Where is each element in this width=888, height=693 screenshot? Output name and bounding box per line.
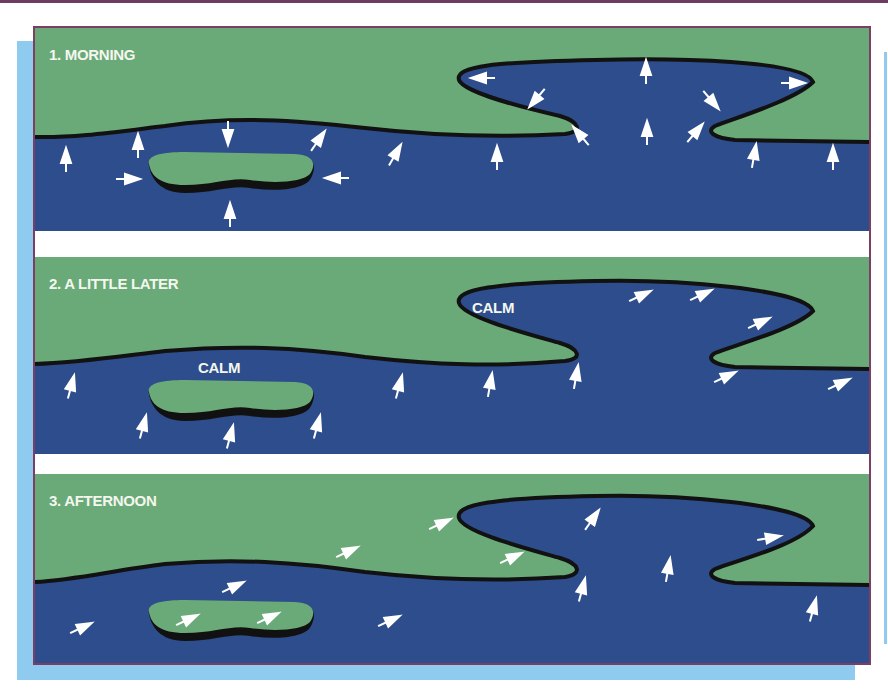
right-margin-rule xyxy=(884,52,887,644)
calm-label-island: CALM xyxy=(198,359,240,376)
panel-title: 2. A LITTLE LATER xyxy=(49,275,178,292)
panel-title: 3. AFTERNOON xyxy=(49,492,157,509)
diagram-frame: 1. MORNING 2. A L xyxy=(33,26,871,665)
panel-afternoon: 3. AFTERNOON xyxy=(35,474,869,663)
panel-a-little-later: 2. A LITTLE LATER CALM CALM xyxy=(35,257,869,454)
panel-afternoon-illustration xyxy=(35,474,869,663)
calm-label-inlet: CALM xyxy=(472,299,514,316)
panel-title: 1. MORNING xyxy=(49,46,135,63)
panel-morning-illustration xyxy=(35,28,869,231)
top-rule xyxy=(0,0,888,3)
panel-morning: 1. MORNING xyxy=(35,28,869,231)
